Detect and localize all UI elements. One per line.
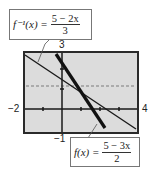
- x-min-label: −2: [8, 104, 19, 114]
- inverse-denominator: 3: [63, 25, 68, 36]
- f-lhs: f(x) =: [74, 146, 99, 158]
- inverse-lhs: f⁻¹(x) =: [13, 18, 48, 31]
- f-function-callout: f(x) = 5 − 3x 2: [70, 137, 140, 167]
- inverse-numerator: 5 − 2x: [51, 13, 80, 25]
- f-numerator: 5 − 3x: [102, 140, 131, 152]
- x-max-label: 4: [142, 104, 148, 114]
- inverse-function-callout: f⁻¹(x) = 5 − 2x 3: [9, 9, 92, 40]
- y-max-label: 3: [59, 40, 65, 50]
- inverse-fraction: 5 − 2x 3: [51, 13, 80, 36]
- y-min-label: −1: [54, 134, 65, 144]
- f-fraction: 5 − 3x 2: [102, 140, 131, 163]
- f-denominator: 2: [114, 153, 119, 164]
